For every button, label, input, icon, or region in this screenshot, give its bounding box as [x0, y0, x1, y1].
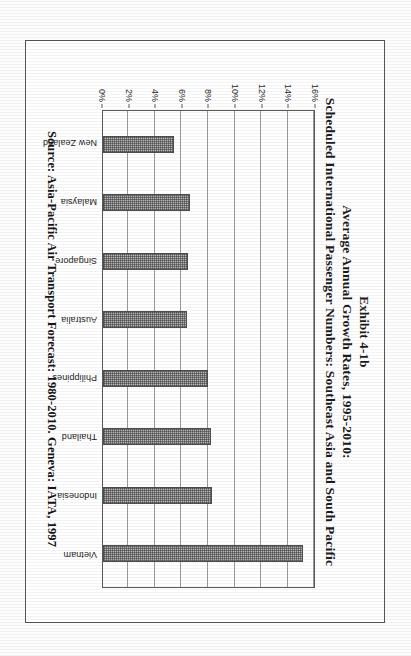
source-note: Source: Asia-Pacific Air Transport Forec… — [44, 66, 59, 612]
bar-slot — [103, 466, 314, 525]
chart-title-block: Exhibit 4-1b Average Annual Growth Rates… — [322, 52, 373, 612]
value-axis-tick-mark — [208, 104, 209, 108]
bar — [103, 311, 187, 328]
bar — [103, 428, 211, 445]
value-axis-tick-label: 6% — [177, 88, 187, 101]
value-axis-tick-mark — [288, 104, 289, 108]
value-axis: 0%2%4%6%8%10%12%14%16% — [102, 52, 315, 108]
category-axis-label: Philippines — [52, 373, 97, 383]
value-axis-tick-mark — [181, 104, 182, 108]
category-axis-label: Thailand — [62, 432, 97, 442]
value-axis-tick-label: 2% — [124, 88, 134, 101]
value-axis-tick-label: 8% — [204, 88, 214, 101]
value-axis-tick-mark — [128, 104, 129, 108]
rotated-chart-stage: Exhibit 4-1b Average Annual Growth Rates… — [35, 52, 375, 612]
bar — [103, 194, 190, 211]
value-axis-tick-label: 0% — [97, 88, 107, 101]
bar — [103, 545, 303, 562]
value-axis-tick-label: 4% — [150, 88, 160, 101]
chart-title-line-2: Average Annual Growth Rates, 1995-2010: — [339, 52, 356, 612]
bar — [103, 135, 174, 152]
category-axis-label: Malaysia — [61, 197, 97, 207]
value-axis-tick-mark — [155, 104, 156, 108]
value-axis-tick-label: 12% — [257, 83, 267, 101]
bar-slot — [103, 232, 314, 291]
plot-area — [102, 110, 315, 588]
value-axis-tick-label: 16% — [310, 83, 320, 101]
category-axis-label: Indonesia — [57, 490, 97, 500]
value-axis-tick-label: 14% — [283, 83, 293, 101]
value-axis-tick-mark — [235, 104, 236, 108]
bar — [103, 369, 208, 386]
scanned-page: Exhibit 4-1b Average Annual Growth Rates… — [0, 0, 411, 656]
chart-title-line-1: Exhibit 4-1b — [356, 52, 373, 612]
value-axis-tick-label: 10% — [230, 83, 240, 101]
bar-slot — [103, 115, 314, 174]
bar-slot — [103, 290, 314, 349]
value-axis-tick-mark — [102, 104, 103, 108]
bar-slot — [103, 524, 314, 583]
bar — [103, 486, 212, 503]
value-axis-tick-mark — [315, 104, 316, 108]
bar-slot — [103, 407, 314, 466]
category-axis-label: Vietnam — [63, 549, 97, 559]
bar — [103, 252, 188, 269]
value-axis-tick-mark — [261, 104, 262, 108]
bar-slot — [103, 173, 314, 232]
bar-slot — [103, 349, 314, 408]
chart-title-line-3: Scheduled International Passenger Number… — [322, 52, 339, 612]
figure-border-box: Exhibit 4-1b Average Annual Growth Rates… — [25, 40, 385, 623]
category-axis-label: Singapore — [55, 255, 97, 265]
category-axis-label: Australia — [61, 314, 97, 324]
bars-layer — [103, 111, 314, 587]
